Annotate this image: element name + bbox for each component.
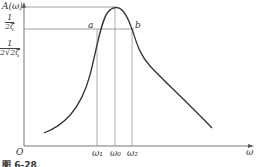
figure-caption: 图 6-28 [2,158,37,167]
point-b-label: b [135,21,141,30]
half-power-level-label: 1 2√2ζ [0,40,20,57]
omega0-label: ω₀ [110,149,121,158]
x-axis-label: ω [246,148,253,157]
origin-label: O [16,148,23,157]
omega1-label: ω₁ [92,149,103,158]
point-a-label: a [88,21,93,30]
omega2-label: ω₂ [127,149,138,158]
peak-level-label: 1 2ζ [5,14,14,31]
amplitude-curve [44,8,212,133]
plot-canvas [0,0,258,167]
y-axis-label: A(ω) [2,2,23,11]
resonance-figure: A(ω) 1 2ζ 1 2√2ζ a b O ω₁ ω₀ ω₂ ω 图 6-28 [0,0,258,167]
